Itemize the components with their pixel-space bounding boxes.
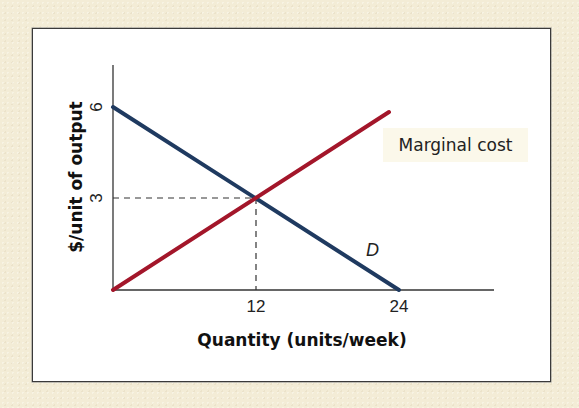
marginal-cost-line (113, 112, 389, 290)
y-tick-6: 6 (88, 102, 105, 111)
y-axis-label: $/unit of output (66, 101, 86, 252)
marginal-cost-label: Marginal cost (383, 128, 528, 162)
x-axis-label: Quantity (units/week) (197, 330, 406, 350)
demand-label: D (366, 240, 379, 261)
x-tick-24: 24 (390, 298, 409, 315)
marginal-cost-label-text: Marginal cost (399, 135, 513, 155)
x-tick-12: 12 (247, 298, 266, 315)
y-tick-3: 3 (88, 193, 105, 202)
